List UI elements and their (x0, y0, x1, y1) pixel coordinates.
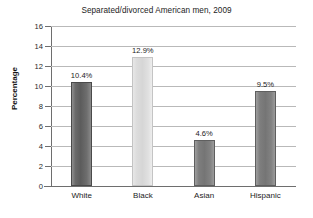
y-axis-tick-label: 14 (3, 42, 43, 51)
bar-asian[interactable] (194, 140, 215, 186)
x-axis-tick-label-white: White (47, 191, 117, 200)
x-axis-line (44, 186, 296, 187)
bar-chart-figure: Separated/divorced American men, 2009 Pe… (0, 0, 313, 218)
y-axis-tick-label: 10 (3, 82, 43, 91)
y-axis-tick-mark (45, 66, 51, 67)
bar-value-label-hispanic: 9.5% (238, 80, 292, 89)
bar-black[interactable] (132, 57, 153, 186)
gridline (51, 66, 296, 67)
y-axis-tick-mark (45, 146, 51, 147)
y-axis-tick-labels: 1614121086420 (0, 0, 43, 218)
bar-value-label-asian: 4.6% (177, 129, 231, 138)
y-axis-tick-label: 8 (3, 102, 43, 111)
x-axis-tick-label-hispanic: Hispanic (230, 191, 300, 200)
x-axis-tick-label-black: Black (108, 191, 178, 200)
plot-area (51, 26, 296, 186)
bar-white[interactable] (71, 82, 92, 186)
bar-value-label-black: 12.9% (116, 46, 170, 55)
bar-value-label-white: 10.4% (55, 71, 109, 80)
gridline (51, 26, 296, 27)
y-axis-tick-label: 0 (3, 182, 43, 191)
gridline (51, 46, 296, 47)
y-axis-tick-label: 2 (3, 162, 43, 171)
y-axis-tick-mark (45, 26, 51, 27)
y-axis-tick-mark (45, 166, 51, 167)
y-axis-tick-label: 16 (3, 22, 43, 31)
y-axis-tick-mark (45, 86, 51, 87)
x-axis-tick-label-asian: Asian (169, 191, 239, 200)
y-axis-tick-label: 12 (3, 62, 43, 71)
y-axis-tick-mark (45, 106, 51, 107)
chart-title: Separated/divorced American men, 2009 (0, 6, 313, 15)
y-axis-tick-mark (45, 46, 51, 47)
bar-hispanic[interactable] (255, 91, 276, 186)
y-axis-tick-label: 4 (3, 142, 43, 151)
y-axis-tick-label: 6 (3, 122, 43, 131)
y-axis-tick-mark (45, 126, 51, 127)
y-axis-tick-mark (45, 186, 51, 187)
